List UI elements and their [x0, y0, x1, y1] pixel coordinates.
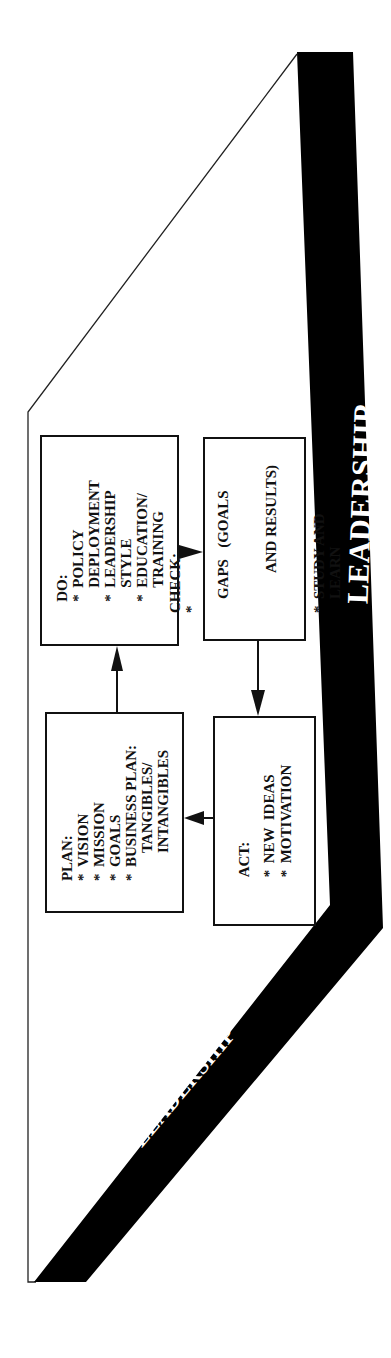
check-box: CHECK: * GAPS (GOALS AND RESULTS) * STUD…	[203, 437, 306, 641]
act-item: * MOTIVATION	[277, 765, 294, 878]
arrow-plan-to-do	[111, 646, 123, 712]
bullet-asterisk: *	[277, 863, 294, 877]
plan-item-text: GOALS	[107, 814, 123, 867]
do-item: * POLICY DEPLOYMENT	[70, 480, 102, 602]
check-item-text: STUDY AND	[311, 513, 327, 599]
act-item-text: NEW IDEAS	[260, 774, 277, 863]
plan-box: PLAN: * VISION * MISSION * GOALS * BUSIN…	[45, 712, 184, 913]
act-content: ACT: * NEW IDEAS * MOTIVATION	[235, 765, 294, 878]
plan-item: * MISSION	[91, 744, 107, 880]
plan-item: * VISION	[75, 744, 91, 880]
bullet-asterisk: *	[311, 599, 327, 613]
do-item-text: EDUCATION/	[134, 493, 150, 588]
do-title: DO:	[54, 480, 70, 602]
do-item-text: POLICY	[70, 480, 86, 588]
plan-item: * GOALS	[107, 744, 123, 880]
check-item-text: AND RESULTS)	[263, 465, 279, 599]
plan-item-text: MISSION	[91, 802, 107, 867]
arrow-act-to-plan	[184, 811, 213, 825]
do-item: * EDUCATION/ TRAINING	[134, 480, 166, 602]
plan-item-text: INTANGIBLES	[155, 744, 171, 866]
bullet-asterisk: *	[260, 863, 277, 877]
do-item-text: LEADERSHIP	[102, 490, 118, 588]
plan-title: PLAN:	[59, 744, 75, 880]
do-content: DO: * POLICY DEPLOYMENT * LEADERSHIP STY…	[54, 480, 166, 602]
bullet-asterisk: *	[134, 587, 150, 601]
bullet-asterisk: *	[183, 599, 199, 613]
bullet-asterisk: *	[102, 587, 118, 601]
leadership-label-right: LEADERSHIP	[341, 403, 382, 604]
plan-item-text: TANGIBLES/	[139, 744, 155, 866]
bullet-asterisk: *	[75, 867, 91, 881]
frame-and-arrows	[0, 0, 391, 1358]
do-item-text: TRAINING	[150, 493, 166, 588]
check-item-text: GAPS (GOALS	[215, 465, 231, 599]
do-item-text: STYLE	[118, 490, 134, 588]
do-item: * LEADERSHIP STYLE	[102, 480, 134, 602]
act-item: * NEW IDEAS	[260, 765, 277, 878]
bullet-asterisk: *	[91, 867, 107, 881]
bullet-asterisk: *	[70, 587, 86, 601]
plan-content: PLAN: * VISION * MISSION * GOALS * BUSIN…	[59, 744, 171, 880]
act-title: ACT:	[235, 765, 252, 878]
do-item-text: DEPLOYMENT	[86, 480, 102, 588]
plan-item: * BUSINESS PLAN: TANGIBLES/ INTANGIBLES	[123, 744, 171, 880]
check-item: * STUDY AND LEARN	[311, 465, 343, 613]
check-content: CHECK: * GAPS (GOALS AND RESULTS) * STUD…	[167, 465, 343, 613]
arrow-check-to-act	[251, 640, 265, 716]
check-title: CHECK:	[167, 465, 183, 613]
act-item-text: MOTIVATION	[277, 765, 294, 864]
do-box: DO: * POLICY DEPLOYMENT * LEADERSHIP STY…	[40, 435, 179, 646]
bullet-asterisk: *	[123, 867, 139, 881]
check-item: * GAPS (GOALS AND RESULTS)	[183, 465, 311, 613]
bullet-asterisk: *	[107, 867, 123, 881]
plan-item-text: BUSINESS PLAN:	[123, 744, 139, 866]
pdca-leadership-diagram: DO: * POLICY DEPLOYMENT * LEADERSHIP STY…	[0, 0, 391, 1358]
leadership-band	[34, 52, 383, 1282]
plan-item-text: VISION	[75, 813, 91, 866]
act-box: ACT: * NEW IDEAS * MOTIVATION	[213, 716, 316, 926]
